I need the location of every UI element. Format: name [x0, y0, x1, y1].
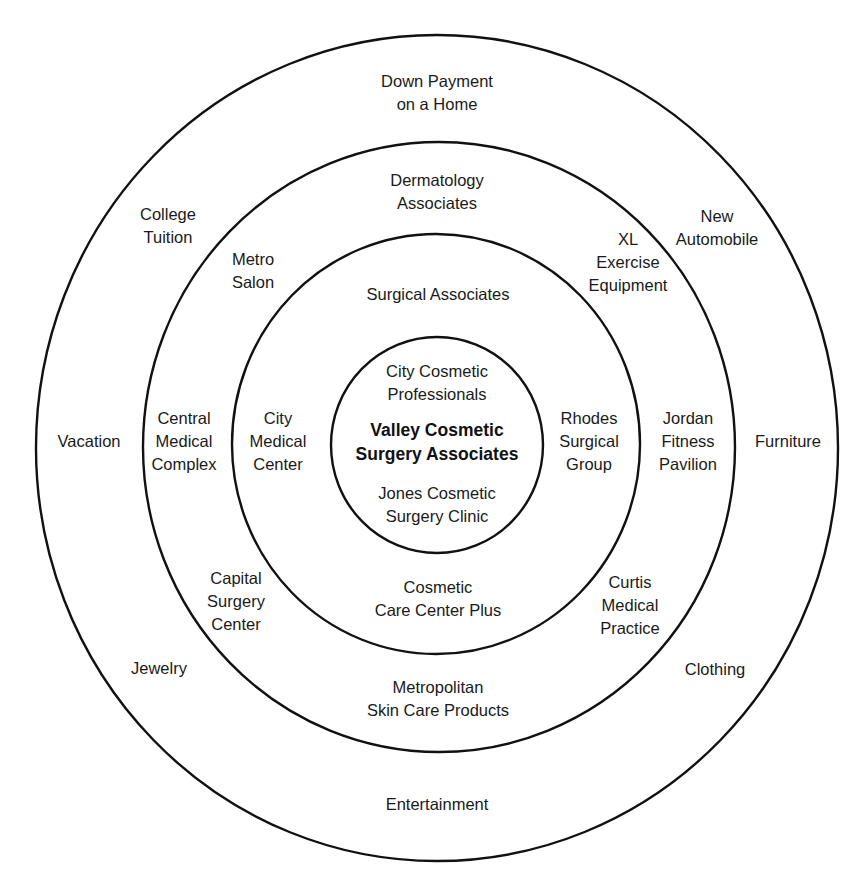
label-capital-surgery-center: Capital Surgery Center: [207, 567, 265, 636]
label-jordan-fitness-pavilion: Jordan Fitness Pavilion: [659, 407, 717, 476]
label-line: City Cosmetic: [386, 360, 488, 383]
label-line: Medical: [250, 430, 307, 453]
label-line: Automobile: [676, 228, 759, 251]
label-line: XL: [589, 228, 668, 251]
label-cosmetic-care-center-plus: Cosmetic Care Center Plus: [375, 576, 502, 622]
label-metropolitan-skin-care-products: Metropolitan Skin Care Products: [367, 676, 509, 722]
label-line: Associates: [390, 192, 484, 215]
label-vacation: Vacation: [58, 430, 121, 453]
label-down-payment-on-a-home: Down Payment on a Home: [381, 70, 493, 116]
label-line: Center: [250, 453, 307, 476]
label-college-tuition: College Tuition: [140, 203, 196, 249]
label-line: Metro: [232, 248, 274, 271]
label-line: Vacation: [58, 430, 121, 453]
label-line: Practice: [600, 617, 660, 640]
label-line: Tuition: [140, 226, 196, 249]
label-line: Medical: [151, 430, 216, 453]
label-xl-exercise-equipment: XL Exercise Equipment: [589, 228, 668, 297]
label-line: Clothing: [685, 658, 746, 681]
label-rhodes-surgical-group: Rhodes Surgical Group: [559, 407, 619, 476]
label-line: Medical: [600, 594, 660, 617]
label-jewelry: Jewelry: [131, 657, 187, 680]
label-line: Dermatology: [390, 169, 484, 192]
label-line: Furniture: [755, 430, 821, 453]
label-line: College: [140, 203, 196, 226]
label-line: Rhodes: [559, 407, 619, 430]
label-line: City: [250, 407, 307, 430]
center-label-line: Valley Cosmetic: [356, 418, 519, 442]
label-line: Equipment: [589, 274, 668, 297]
label-line: Exercise: [589, 251, 668, 274]
label-line: Capital: [207, 567, 265, 590]
label-central-medical-complex: Central Medical Complex: [151, 407, 216, 476]
label-jones-cosmetic-surgery-clinic: Jones Cosmetic Surgery Clinic: [378, 482, 495, 528]
label-line: Pavilion: [659, 453, 717, 476]
label-entertainment: Entertainment: [386, 793, 489, 816]
label-line: Surgical Associates: [366, 283, 509, 306]
label-metro-salon: Metro Salon: [232, 248, 274, 294]
label-line: Group: [559, 453, 619, 476]
label-line: Care Center Plus: [375, 599, 502, 622]
label-city-medical-center: City Medical Center: [250, 407, 307, 476]
label-line: Down Payment: [381, 70, 493, 93]
label-line: Center: [207, 613, 265, 636]
label-line: Surgery: [207, 590, 265, 613]
label-line: Complex: [151, 453, 216, 476]
center-label-valley-cosmetic-surgery-associates: Valley Cosmetic Surgery Associates: [356, 418, 519, 466]
label-city-cosmetic-professionals: City Cosmetic Professionals: [386, 360, 488, 406]
label-line: Cosmetic: [375, 576, 502, 599]
label-line: Surgery Clinic: [378, 505, 495, 528]
label-line: Salon: [232, 271, 274, 294]
label-line: Surgical: [559, 430, 619, 453]
label-dermatology-associates: Dermatology Associates: [390, 169, 484, 215]
label-line: Curtis: [600, 571, 660, 594]
label-line: Jordan: [659, 407, 717, 430]
label-line: Metropolitan: [367, 676, 509, 699]
label-line: Jewelry: [131, 657, 187, 680]
label-line: Skin Care Products: [367, 699, 509, 722]
label-curtis-medical-practice: Curtis Medical Practice: [600, 571, 660, 640]
label-line: Fitness: [659, 430, 717, 453]
label-line: Central: [151, 407, 216, 430]
label-line: Entertainment: [386, 793, 489, 816]
label-line: on a Home: [381, 93, 493, 116]
label-new-automobile: New Automobile: [676, 205, 759, 251]
label-line: New: [676, 205, 759, 228]
label-furniture: Furniture: [755, 430, 821, 453]
label-clothing: Clothing: [685, 658, 746, 681]
label-line: Professionals: [386, 383, 488, 406]
label-line: Jones Cosmetic: [378, 482, 495, 505]
label-surgical-associates: Surgical Associates: [366, 283, 509, 306]
center-label-line: Surgery Associates: [356, 442, 519, 466]
